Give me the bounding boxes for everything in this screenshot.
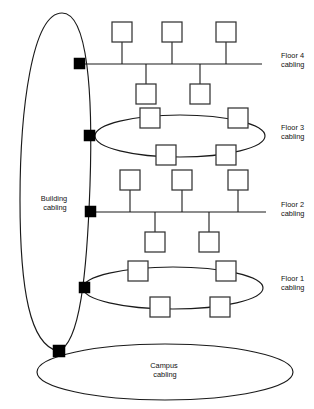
floor-2-connector (85, 206, 96, 217)
campus-cabling-label: Campus cabling (150, 361, 180, 379)
floor-4-segment (74, 22, 262, 104)
floor-1-segment (79, 261, 263, 317)
floor-4-cabling-label: Floor 4 cabling (281, 51, 306, 69)
floor-3-connector (84, 130, 95, 141)
building-cabling-label: Building cabling (41, 194, 69, 212)
floor-3-node-2 (228, 108, 248, 128)
floor-4-node-1 (112, 22, 132, 42)
floor-3-cabling-label: Floor 3 cabling (281, 123, 306, 141)
floor-4-node-3 (216, 22, 236, 42)
cabling-diagram: Building cabling Campus cabling Floor 4 … (0, 0, 314, 409)
floor-2-node-2 (172, 170, 192, 190)
diagram-canvas: Building cabling Campus cabling Floor 4 … (0, 0, 314, 409)
floor-1-node-4 (210, 297, 230, 317)
floor-1-node-1 (128, 261, 148, 281)
floor-1-cabling-label: Floor 1 cabling (281, 274, 306, 292)
floor-3-node-3 (156, 145, 176, 165)
floor-1-connector (79, 282, 90, 293)
floor-2-cabling-label: Floor 2 cabling (281, 200, 306, 218)
floor-2-segment (85, 170, 266, 252)
campus-building-junction (53, 345, 65, 357)
floor-4-node-5 (190, 84, 210, 104)
floor-2-node-4 (145, 232, 165, 252)
floor-4-node-4 (136, 84, 156, 104)
floor-3-node-4 (216, 145, 236, 165)
floor-2-node-3 (228, 170, 248, 190)
floor-2-node-5 (199, 232, 219, 252)
floor-3-segment (84, 108, 265, 165)
floor-3-node-1 (140, 108, 160, 128)
floor-2-node-1 (120, 170, 140, 190)
floor-1-node-2 (216, 261, 236, 281)
floor-1-node-3 (150, 297, 170, 317)
floor-4-node-2 (162, 22, 182, 42)
floor-4-connector (74, 58, 85, 69)
